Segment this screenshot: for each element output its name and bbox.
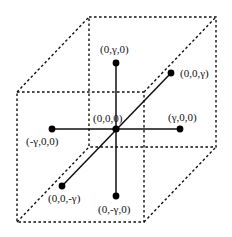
- point-pos-x: [177, 126, 184, 133]
- label-neg-z: (0,0,-γ): [48, 192, 81, 205]
- label-neg-y: (0,-γ,0): [98, 203, 131, 216]
- cube-edge-bottom-left: [17, 147, 89, 222]
- label-pos-y: (0,γ,0): [100, 43, 129, 56]
- point-neg-y: [113, 193, 120, 200]
- cube-edge-top-right: [144, 17, 216, 92]
- cube-lattice-diagram: (0,0,0) (0,γ,0) (0,0,γ) (γ,0,0) (-γ,0,0)…: [0, 0, 232, 237]
- label-origin: (0,0,0): [93, 112, 123, 125]
- cube-edge-top-left: [17, 17, 89, 92]
- point-neg-z: [59, 183, 66, 190]
- label-pos-x: (γ,0,0): [168, 111, 197, 124]
- cube-edge-bottom-right: [144, 147, 216, 222]
- label-neg-x: (-γ,0,0): [26, 135, 59, 148]
- origin-point: [112, 125, 119, 132]
- point-pos-z: [168, 70, 175, 77]
- point-pos-y: [113, 60, 120, 67]
- point-neg-x: [49, 126, 56, 133]
- label-pos-z: (0,0,γ): [180, 67, 209, 80]
